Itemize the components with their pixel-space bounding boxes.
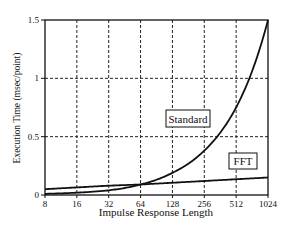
y-tick-label: 0 bbox=[35, 190, 40, 200]
x-tick-label: 8 bbox=[43, 199, 48, 209]
legend-fft-label: FFT bbox=[234, 155, 253, 167]
x-tick-label: 1024 bbox=[259, 199, 278, 209]
chart: 00.511.5 81632641282565121024 Impulse Re… bbox=[0, 0, 290, 230]
x-tick-label: 16 bbox=[72, 199, 82, 209]
y-tick-label: 0.5 bbox=[28, 132, 40, 142]
y-tick-label: 1 bbox=[35, 73, 40, 83]
x-tick-label: 512 bbox=[229, 199, 243, 209]
y-axis-ticks: 00.511.5 bbox=[28, 15, 45, 200]
x-axis-label: Impulse Response Length bbox=[99, 206, 214, 218]
y-tick-label: 1.5 bbox=[28, 15, 40, 25]
legend-standard-label: Standard bbox=[168, 113, 208, 125]
legend-standard: Standard bbox=[166, 110, 210, 127]
legend-fft: FFT bbox=[229, 153, 257, 169]
y-axis-label: Execution Time (msec/point) bbox=[12, 53, 23, 164]
